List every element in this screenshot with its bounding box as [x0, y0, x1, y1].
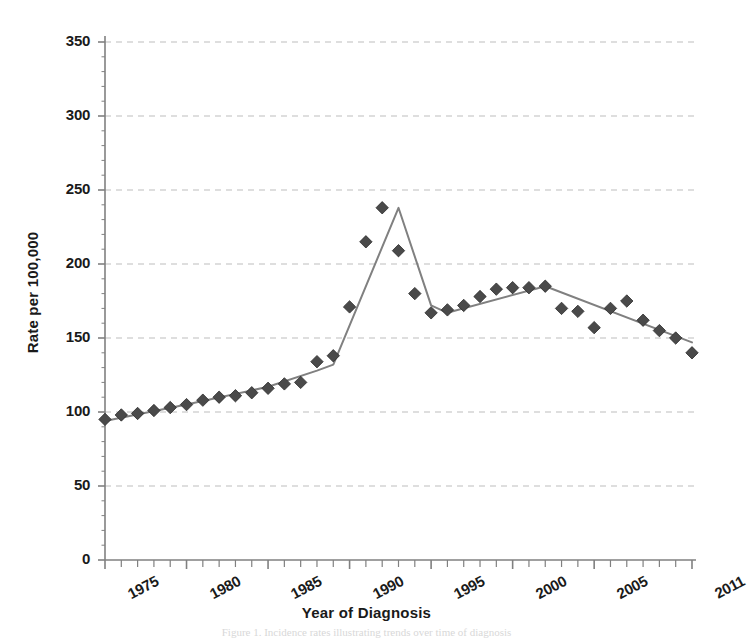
- y-axis-tick-label: 350: [30, 32, 90, 49]
- data-point-marker: [686, 347, 698, 359]
- y-axis-tick-label: 0: [30, 550, 90, 567]
- y-axis-tick-label: 200: [30, 254, 90, 271]
- data-point-marker: [409, 287, 421, 299]
- y-axis-tick-label: 100: [30, 402, 90, 419]
- data-point-marker: [343, 301, 355, 313]
- data-point-marker: [441, 304, 453, 316]
- data-point-marker: [180, 398, 192, 410]
- y-axis-tick-label: 150: [30, 328, 90, 345]
- data-point-marker: [148, 404, 160, 416]
- data-point-marker: [99, 413, 111, 425]
- y-axis-tick-label: 50: [30, 476, 90, 493]
- trend-line: [105, 208, 692, 421]
- data-point-marker: [621, 295, 633, 307]
- data-point-marker: [229, 390, 241, 402]
- data-point-marker: [262, 382, 274, 394]
- data-point-marker: [555, 302, 567, 314]
- x-axis-title: Year of Diagnosis: [0, 604, 733, 621]
- data-point-marker: [213, 391, 225, 403]
- y-axis-tick-label: 250: [30, 180, 90, 197]
- data-point-marker: [474, 290, 486, 302]
- y-axis-title: Rate per 100,000: [24, 183, 41, 403]
- data-point-marker: [376, 202, 388, 214]
- data-point-marker: [360, 236, 372, 248]
- data-point-marker: [327, 350, 339, 362]
- data-point-marker: [131, 407, 143, 419]
- data-point-marker: [506, 281, 518, 293]
- data-point-marker: [588, 321, 600, 333]
- data-point-marker: [572, 305, 584, 317]
- data-point-marker: [311, 355, 323, 367]
- data-point-marker: [392, 244, 404, 256]
- figure-caption-remnant: Figure 1. Incidence rates illustrating t…: [0, 626, 733, 638]
- data-point-marker: [539, 280, 551, 292]
- data-point-marker: [197, 394, 209, 406]
- y-axis-tick-label: 300: [30, 106, 90, 123]
- data-point-marker: [490, 283, 502, 295]
- data-point-marker: [653, 324, 665, 336]
- data-point-marker: [425, 307, 437, 319]
